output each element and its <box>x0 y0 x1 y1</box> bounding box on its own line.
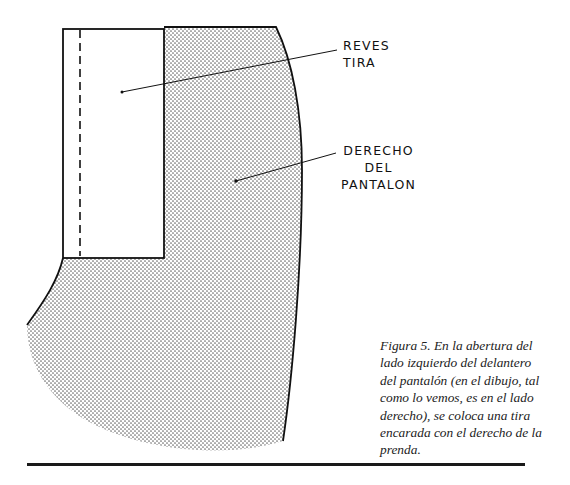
caption-line: prenda. <box>380 441 570 458</box>
caption-line: derecho), se coloca una tira <box>380 407 570 424</box>
label-line: DEL <box>341 159 416 176</box>
label-reves-tira: REVES TIRA <box>343 37 390 71</box>
label-line: TIRA <box>343 54 390 71</box>
caption-line: Figura 5. En la abertura del <box>380 337 570 354</box>
label-line: REVES <box>343 37 390 54</box>
caption-line: encarada con el derecho de la <box>380 424 570 441</box>
leader-dot-reves <box>121 91 124 94</box>
figure-caption: Figura 5. En la abertura del lado izquie… <box>380 337 570 459</box>
leader-dot-derecho <box>234 179 238 183</box>
label-derecho-del-pantalon: DERECHO DEL PANTALON <box>341 142 416 193</box>
label-line: DERECHO <box>341 142 416 159</box>
horizontal-rule-divider <box>27 463 525 466</box>
strip-region <box>63 29 164 258</box>
caption-line: como lo vemos, es en el lado <box>380 389 570 406</box>
caption-line: lado izquierdo del delantero <box>380 354 570 371</box>
caption-line: del pantalón (en el dibujo, tal <box>380 372 570 389</box>
label-line: PANTALON <box>341 176 416 193</box>
